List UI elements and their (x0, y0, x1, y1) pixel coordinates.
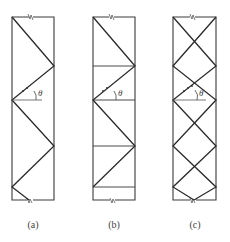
panel-c-angle-label: θ (199, 88, 203, 98)
break-symbol-icon (109, 14, 114, 20)
panel-b-lacing (93, 17, 135, 187)
panel-b (93, 14, 135, 203)
panel-c-angle-arc (195, 90, 198, 100)
panel-c-lacing-1 (173, 17, 216, 200)
panel-c-lacing-2 (173, 17, 216, 200)
panel-b-caption: (b) (94, 219, 134, 230)
panel-a-angle-arc (34, 91, 36, 100)
panel-a-angle-label: θ (38, 88, 42, 98)
panel-b-angle-arc (114, 91, 116, 100)
panel-c-right-frame (195, 17, 216, 200)
panel-a (12, 14, 54, 203)
panel-b-angle-label: θ (118, 88, 122, 98)
break-symbol-icon (190, 14, 195, 20)
break-symbol-icon (110, 198, 115, 203)
panel-c (173, 14, 216, 203)
panel-a-caption: (a) (13, 219, 53, 230)
lacing-diagram (0, 0, 230, 242)
panel-c-caption: (c) (175, 219, 215, 230)
panel-a-lacing (12, 17, 54, 200)
